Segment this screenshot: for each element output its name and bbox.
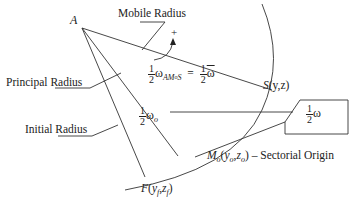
principal-radius-label: Principal Radius xyxy=(6,77,82,89)
omega-bar-symbol: ω xyxy=(207,66,215,80)
rotation-arrow-head xyxy=(170,38,176,45)
mobile-radius-label: Mobile Radius xyxy=(118,8,186,20)
initial-radius-label: Initial Radius xyxy=(25,124,87,136)
fraction-half-2: 12 xyxy=(200,64,207,85)
sectorial-origin-label: Mo(yo,zo) – Sectorial Origin xyxy=(207,150,334,164)
diagram-canvas xyxy=(0,0,359,205)
mobile-radius-leader xyxy=(140,22,165,50)
fraction-half: 12 xyxy=(148,64,155,85)
boxed-omega-label: 12ω xyxy=(306,104,321,125)
point-f-label: F(yf,zf) xyxy=(141,183,173,197)
omega-symbol: ω xyxy=(155,66,163,80)
point-a-label: A xyxy=(70,14,77,26)
omega-o-formula: 12ωo xyxy=(139,106,158,127)
initial-radius-line xyxy=(82,28,145,177)
principal-radius-line xyxy=(82,28,178,156)
plus-sign: + xyxy=(171,27,177,38)
sectorial-area-formula: 12ωAMoS = 12ω xyxy=(148,64,215,85)
point-s-label: S(y,z) xyxy=(263,80,289,92)
